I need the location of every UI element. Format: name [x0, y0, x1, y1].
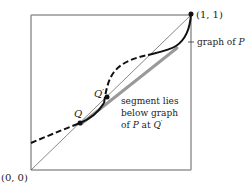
q-prime-label: Q′	[94, 87, 104, 99]
origin-label: (0, 0)	[1, 172, 28, 183]
graph-curve-solid-right	[148, 14, 191, 55]
q-label: Q	[74, 108, 82, 119]
annotation-line-2: below graph	[121, 108, 178, 118]
diagonal-line	[31, 15, 191, 170]
graph-curve-solid-middle	[80, 103, 104, 123]
point-one-one	[189, 12, 194, 17]
graph-curve-dashed-left	[31, 123, 80, 143]
graph-label: graph of P	[197, 37, 245, 47]
annotation-line-3: of P at Q′	[121, 119, 163, 130]
annotation-line-1: segment lies	[121, 96, 179, 106]
diagram-figure: (1, 1) graph of P Q Q′ segment lies belo…	[0, 0, 247, 188]
point-q	[78, 121, 83, 126]
point-q-prime	[105, 95, 110, 100]
corner-label: (1, 1)	[196, 9, 223, 20]
